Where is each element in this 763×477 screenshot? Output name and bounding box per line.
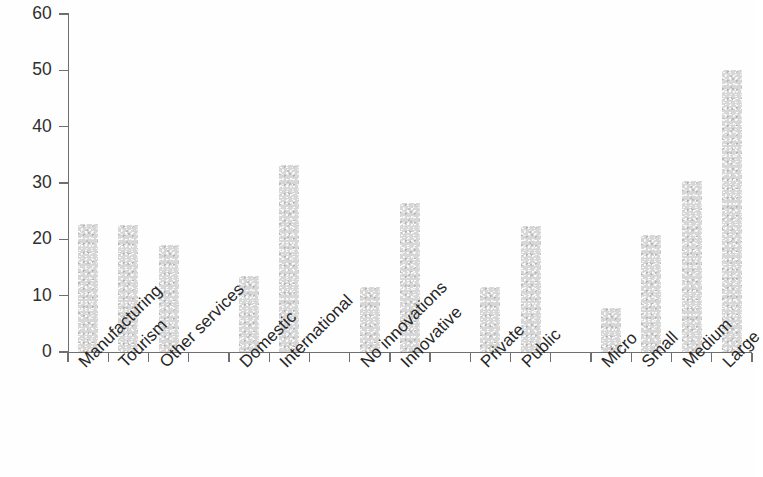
x-axis-tick — [751, 353, 752, 362]
y-axis-tick-label: 10 — [4, 287, 52, 305]
x-axis-tick — [67, 353, 68, 362]
x-axis-tick — [510, 353, 511, 362]
y-axis-tick — [59, 126, 68, 127]
plot-area — [68, 14, 752, 352]
y-axis-tick — [59, 239, 68, 240]
x-axis-tick — [671, 353, 672, 362]
x-axis-tick — [108, 353, 109, 362]
x-axis-tick — [429, 353, 430, 362]
y-axis-tick-label: 30 — [4, 174, 52, 192]
x-axis-tick — [631, 353, 632, 362]
x-axis-tick — [711, 353, 712, 362]
y-axis-tick-label: 0 — [4, 343, 52, 361]
y-axis-tick-label: 60 — [4, 5, 52, 23]
bar — [641, 235, 661, 352]
y-axis-tick — [59, 70, 68, 71]
y-axis-tick-label: 50 — [4, 61, 52, 79]
x-axis-tick — [349, 353, 350, 362]
y-axis-tick-label: 40 — [4, 118, 52, 136]
y-axis-tick-label: 20 — [4, 230, 52, 248]
x-axis-tick — [188, 353, 189, 362]
y-axis-tick — [59, 13, 68, 14]
x-axis-tick — [228, 353, 229, 362]
bar — [682, 181, 702, 352]
x-axis-tick — [389, 353, 390, 362]
y-axis-tick — [59, 295, 68, 296]
x-axis-tick — [309, 353, 310, 362]
x-axis-tick — [269, 353, 270, 362]
y-axis-tick — [59, 182, 68, 183]
x-axis-tick — [550, 353, 551, 362]
x-axis-tick — [590, 353, 591, 362]
x-axis-tick — [470, 353, 471, 362]
x-axis-tick — [148, 353, 149, 362]
bar — [78, 224, 98, 352]
bar — [722, 70, 742, 352]
